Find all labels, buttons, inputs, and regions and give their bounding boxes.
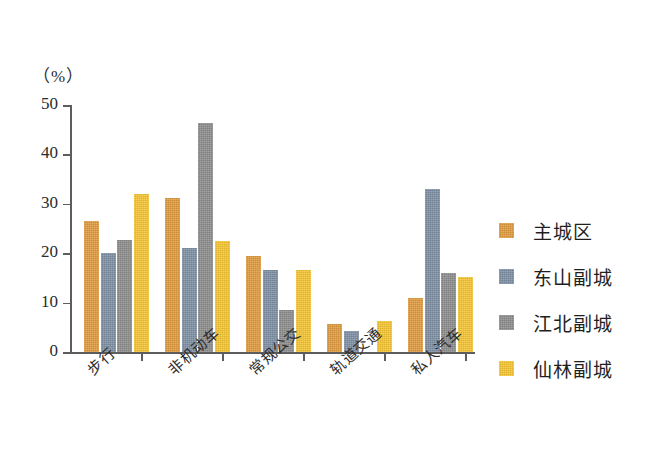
x-axis-tick xyxy=(465,353,467,361)
legend-item: 主城区 xyxy=(499,207,613,253)
y-axis-tick: 50 xyxy=(63,105,70,107)
bar xyxy=(84,221,99,352)
y-axis-tick-label: 10 xyxy=(41,292,58,312)
y-axis-tick: 20 xyxy=(63,253,70,255)
legend-item: 东山副城 xyxy=(499,253,613,299)
legend-color-swatch xyxy=(499,223,514,238)
legend-label: 东山副城 xyxy=(533,263,613,290)
y-axis-tick: 30 xyxy=(63,204,70,206)
y-axis-tick-label: 30 xyxy=(41,193,58,213)
bar xyxy=(246,256,261,352)
bar-chart: （%） 50403020100 步行非机动车常规公交轨道交通私人汽车 主城区东山… xyxy=(0,0,645,457)
legend-item: 江北副城 xyxy=(499,299,613,345)
bar xyxy=(408,298,423,352)
bar xyxy=(117,240,132,352)
bar xyxy=(134,194,149,352)
chart-legend: 主城区东山副城江北副城仙林副城 xyxy=(499,207,613,391)
y-axis-tick: 0 xyxy=(63,352,70,354)
legend-color-swatch xyxy=(499,269,514,284)
bar xyxy=(425,189,440,353)
x-axis-tick xyxy=(222,353,224,361)
y-axis-tick-label: 40 xyxy=(41,143,58,163)
bar xyxy=(101,253,116,352)
x-axis-tick xyxy=(384,353,386,361)
y-axis-unit-label: （%） xyxy=(33,62,84,87)
y-axis-tick: 10 xyxy=(63,303,70,305)
legend-label: 仙林副城 xyxy=(533,355,613,382)
bar xyxy=(198,123,213,352)
legend-item: 仙林副城 xyxy=(499,345,613,391)
plot-area: 50403020100 xyxy=(70,105,475,353)
bar xyxy=(165,198,180,352)
y-axis-line xyxy=(70,105,72,353)
legend-color-swatch xyxy=(499,315,514,330)
y-axis-tick-label: 20 xyxy=(41,242,58,262)
x-axis-tick xyxy=(141,353,143,361)
legend-label: 江北副城 xyxy=(533,309,613,336)
y-axis-tick-label: 50 xyxy=(41,94,58,114)
y-axis-tick: 40 xyxy=(63,154,70,156)
legend-label: 主城区 xyxy=(533,217,593,244)
x-axis-tick xyxy=(303,353,305,361)
y-axis-tick-label: 0 xyxy=(50,341,59,361)
legend-color-swatch xyxy=(499,361,514,376)
